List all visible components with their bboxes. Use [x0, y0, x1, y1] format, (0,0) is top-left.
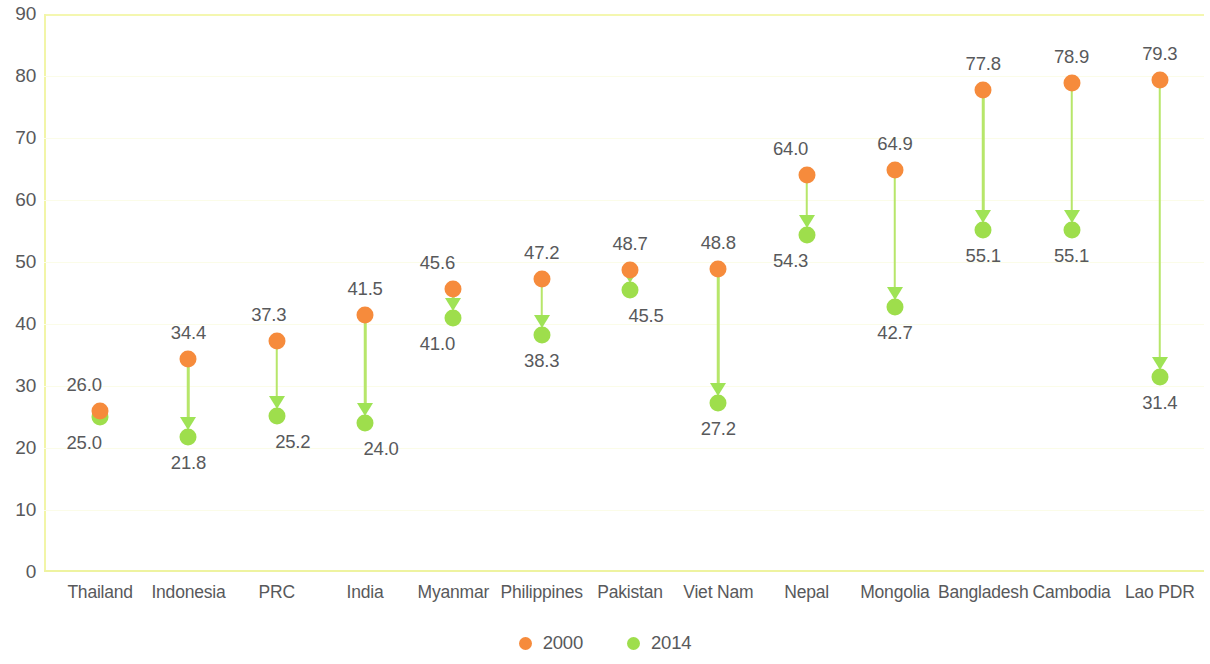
data-point-2014[interactable]	[886, 299, 903, 316]
x-axis-category-label: Myanmar	[418, 582, 490, 603]
y-axis-tick-label: 10	[2, 499, 36, 521]
data-point-2000[interactable]	[357, 306, 374, 323]
x-axis-category-label: Indonesia	[151, 582, 225, 603]
legend-item-2000[interactable]: 2000	[519, 632, 583, 654]
y-axis-tick-label: 60	[2, 189, 36, 211]
legend-dot-icon	[627, 637, 640, 650]
x-axis-category-label: PRC	[259, 582, 295, 603]
change-connector-line	[1159, 80, 1162, 361]
value-label-2000: 48.7	[612, 233, 647, 255]
data-point-2000[interactable]	[1151, 72, 1168, 89]
x-axis-category-label: Mongolia	[860, 582, 929, 603]
value-label-2014: 45.5	[628, 305, 663, 327]
x-axis-category-label: Cambodia	[1032, 582, 1110, 603]
change-connector-line	[894, 170, 897, 292]
data-point-2014[interactable]	[268, 407, 285, 424]
x-axis-category-label: Viet Nam	[683, 582, 753, 603]
x-axis-category-label: Nepal	[784, 582, 829, 603]
data-point-2000[interactable]	[268, 332, 285, 349]
data-point-2000[interactable]	[886, 161, 903, 178]
value-label-2014: 42.7	[877, 322, 912, 344]
x-axis-category-label: Thailand	[67, 582, 133, 603]
value-label-2014: 25.0	[67, 432, 102, 454]
legend-label: 2000	[543, 632, 583, 654]
data-marks-layer: 26.025.034.421.837.325.241.524.045.641.0…	[44, 14, 1204, 572]
data-point-2014[interactable]	[1063, 222, 1080, 239]
data-point-2014[interactable]	[975, 222, 992, 239]
x-axis-category-label: Bangladesh	[938, 582, 1028, 603]
value-label-2014: 25.2	[275, 431, 310, 453]
x-axis-category-label: Philippines	[500, 582, 582, 603]
data-point-2000[interactable]	[975, 81, 992, 98]
data-point-2000[interactable]	[180, 350, 197, 367]
value-label-2000: 34.4	[171, 322, 206, 344]
value-label-2014: 31.4	[1142, 392, 1177, 414]
value-label-2014: 21.8	[171, 452, 206, 474]
value-label-2014: 38.3	[524, 350, 559, 372]
value-label-2000: 64.0	[773, 138, 808, 160]
y-axis-tick-labels: 0102030405060708090	[0, 14, 36, 572]
change-connector-line	[717, 269, 720, 387]
value-label-2000: 64.9	[877, 133, 912, 155]
change-connector-line	[982, 90, 985, 215]
y-axis-tick-label: 80	[2, 65, 36, 87]
value-label-2014: 24.0	[363, 438, 398, 460]
value-label-2014: 41.0	[420, 333, 455, 355]
value-label-2000: 78.9	[1054, 46, 1089, 68]
x-axis-category-label: Lao PDR	[1125, 582, 1195, 603]
value-label-2000: 48.8	[701, 232, 736, 254]
data-point-2000[interactable]	[92, 402, 109, 419]
y-axis-tick-label: 20	[2, 437, 36, 459]
data-point-2000[interactable]	[710, 261, 727, 278]
value-label-2000: 41.5	[347, 278, 382, 300]
y-axis-tick-label: 50	[2, 251, 36, 273]
data-point-2014[interactable]	[1151, 369, 1168, 386]
change-connector-line	[276, 341, 279, 400]
legend-label: 2014	[651, 632, 691, 654]
value-label-2014: 27.2	[701, 418, 736, 440]
y-axis-tick-label: 40	[2, 313, 36, 335]
value-label-2000: 47.2	[524, 242, 559, 264]
data-point-2014[interactable]	[710, 395, 727, 412]
y-axis-tick-label: 0	[2, 561, 36, 583]
value-label-2000: 77.8	[966, 53, 1001, 75]
value-label-2000: 79.3	[1142, 43, 1177, 65]
change-connector-line	[1070, 83, 1073, 215]
chart-legend: 20002014	[0, 632, 1210, 654]
x-axis-category-label: India	[347, 582, 384, 603]
data-point-2014[interactable]	[180, 428, 197, 445]
data-point-2014[interactable]	[357, 415, 374, 432]
arrow-chart: 0102030405060708090 26.025.034.421.837.3…	[0, 0, 1210, 664]
value-label-2014: 54.3	[773, 250, 808, 272]
data-point-2014[interactable]	[798, 227, 815, 244]
value-label-2000: 37.3	[251, 304, 286, 326]
value-label-2000: 45.6	[420, 252, 455, 274]
data-point-2000[interactable]	[1063, 74, 1080, 91]
x-axis-category-label: Pakistan	[597, 582, 663, 603]
y-axis-tick-label: 30	[2, 375, 36, 397]
data-point-2000[interactable]	[445, 281, 462, 298]
y-axis-tick-label: 90	[2, 3, 36, 25]
legend-item-2014[interactable]: 2014	[627, 632, 691, 654]
data-point-2000[interactable]	[622, 262, 639, 279]
value-label-2000: 26.0	[67, 374, 102, 396]
data-point-2014[interactable]	[445, 309, 462, 326]
data-point-2014[interactable]	[533, 326, 550, 343]
data-point-2000[interactable]	[798, 167, 815, 184]
change-connector-line	[187, 359, 190, 421]
value-label-2014: 55.1	[966, 245, 1001, 267]
data-point-2000[interactable]	[533, 271, 550, 288]
change-connector-line	[364, 315, 367, 408]
plot-area: 26.025.034.421.837.325.241.524.045.641.0…	[44, 14, 1204, 572]
value-label-2014: 55.1	[1054, 245, 1089, 267]
data-point-2014[interactable]	[622, 281, 639, 298]
legend-dot-icon	[519, 637, 532, 650]
y-axis-tick-label: 70	[2, 127, 36, 149]
